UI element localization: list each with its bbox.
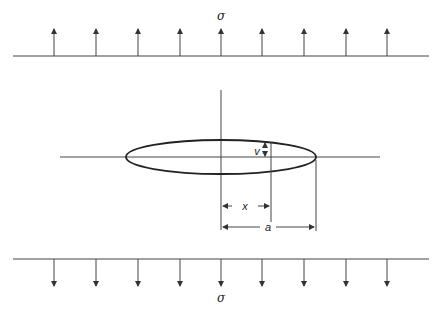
stress-label-top: σ [217,9,226,23]
bottom-stress-arrows [54,259,387,286]
half-length-label: a [265,221,271,233]
position-label: x [241,200,248,212]
bottom-stress-group: σ [13,259,429,305]
opening-label: v [254,145,261,157]
top-stress-group: σ [13,9,429,56]
stress-label-bottom: σ [217,291,226,305]
crack-diagram: σ v x a σ [0,0,442,312]
top-stress-arrows [54,29,387,56]
